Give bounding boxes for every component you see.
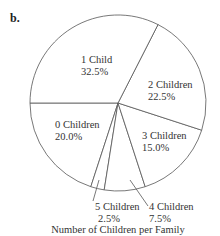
value-5-children: 2.5% — [98, 213, 120, 224]
chart-caption: Number of Children per Family — [51, 224, 185, 235]
label-1-child: 1 Child — [81, 54, 113, 65]
label-2-children: 2 Children — [148, 79, 193, 90]
label-0-children: 0 Children — [55, 119, 100, 130]
label-4-children: 4 Children — [149, 201, 194, 212]
pie-slices — [30, 15, 206, 191]
value-2-children: 22.5% — [148, 91, 175, 102]
label-3-children: 3 Children — [142, 130, 187, 141]
value-1-child: 32.5% — [81, 66, 108, 77]
pie-chart: 1 Child 32.5% 2 Children 22.5% 0 Childre… — [0, 0, 220, 236]
value-4-children: 7.5% — [149, 213, 171, 224]
value-3-children: 15.0% — [142, 142, 169, 153]
value-0-children: 20.0% — [55, 131, 82, 142]
label-5-children: 5 Children — [95, 201, 140, 212]
